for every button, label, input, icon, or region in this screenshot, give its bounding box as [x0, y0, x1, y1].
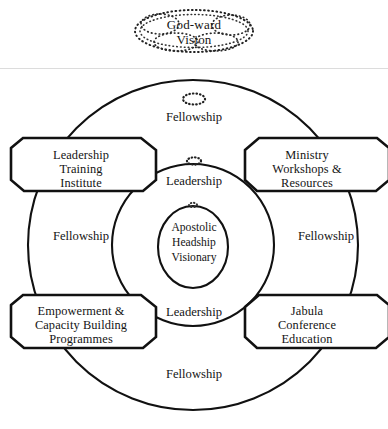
ring-label-fellowship-left: Fellowship: [21, 229, 141, 243]
dotted-ornament-outer-icon: [183, 94, 205, 105]
diagram-graphics: [0, 0, 388, 429]
ring-label-fellowship-top: Fellowship: [134, 110, 254, 124]
core-label: Apostolic Headship Visionary: [150, 221, 238, 265]
diagram-canvas: God-ward Vision Fellowship Leadership Fe…: [0, 0, 388, 429]
ring-label-fellowship-bottom: Fellowship: [134, 367, 254, 381]
box-label-leadership-training-institute: Leadership Training Institute: [8, 149, 154, 191]
box-label-ministry-workshops-resources: Ministry Workshops & Resources: [234, 149, 380, 191]
box-label-jabula-conference-education: Jabula Conference Education: [234, 305, 380, 347]
box-label-empowerment-capacity-building-programmes: Empowerment & Capacity Building Programm…: [8, 305, 154, 347]
vision-label: God-ward Vision: [134, 18, 254, 47]
ring-label-fellowship-right: Fellowship: [266, 229, 386, 243]
